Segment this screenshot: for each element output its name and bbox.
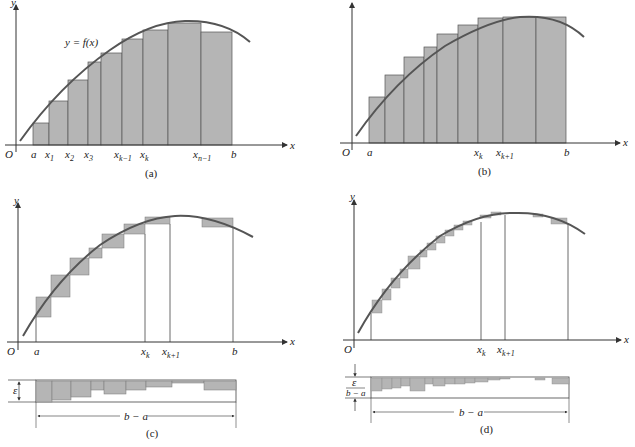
tick-labels-a: a x1 x2 x3 xk−1 xk xn−1 b (31, 148, 237, 163)
caption-d: (d) (480, 423, 493, 436)
difference-strip-c: ε b − a (8, 380, 236, 428)
svg-text:xk: xk (476, 343, 486, 358)
svg-text:b: b (232, 345, 238, 357)
origin-label: O (7, 345, 15, 357)
panel-a: y = f(x) x y O a x1 x2 x3 xk−1 xk xn−1 b… (5, 0, 295, 180)
svg-text:x3: x3 (83, 148, 93, 163)
caption-b: (b) (478, 165, 491, 178)
origin-label: O (5, 148, 13, 160)
tick-labels-d: xk xk+1 (476, 343, 515, 358)
panel-b: x O a xk xk+1 b (b) (340, 3, 628, 178)
strip-height-label: ε (13, 384, 18, 396)
svg-text:xk+1: xk+1 (161, 345, 180, 360)
svg-text:a: a (34, 345, 40, 357)
caption-a: (a) (145, 167, 158, 180)
x-axis-label: x (622, 136, 628, 148)
lower-sum-rectangles (33, 23, 232, 145)
svg-text:x1: x1 (44, 148, 54, 163)
caption-c: (c) (146, 427, 159, 440)
svg-text:a: a (367, 146, 373, 158)
svg-text:xk−1: xk−1 (113, 148, 132, 163)
x-axis-label: x (289, 335, 295, 347)
svg-text:xk+1: xk+1 (495, 146, 514, 161)
panel-c: y x O a xk xk+1 b (7, 194, 295, 440)
x-axis-label: x (623, 333, 629, 345)
curve-label: y = f(x) (64, 36, 98, 49)
svg-text:xk: xk (140, 345, 150, 360)
y-axis-label: y (10, 0, 16, 8)
svg-text:xk+1: xk+1 (496, 343, 515, 358)
difference-strip-d: ε b − a b − a (345, 364, 569, 423)
svg-text:b: b (564, 146, 570, 158)
svg-text:a: a (31, 148, 37, 160)
svg-text:b: b (231, 148, 237, 160)
x-axis-label: x (289, 139, 295, 151)
strip-height-numerator: ε (352, 376, 357, 388)
tick-labels-b: a xk xk+1 b (367, 146, 570, 161)
tick-labels-c: a xk xk+1 b (34, 345, 238, 360)
panel-d: y x O xk xk+1 (343, 190, 629, 436)
curve-f (358, 213, 585, 333)
difference-rectangles (36, 217, 233, 317)
origin-label: O (344, 343, 352, 355)
svg-text:xk: xk (139, 148, 149, 163)
strip-width-label: b − a (459, 406, 483, 418)
svg-text:xn−1: xn−1 (192, 148, 211, 163)
svg-text:x2: x2 (64, 148, 74, 163)
upper-sum-rectangles (369, 17, 566, 143)
origin-label: O (342, 146, 350, 158)
y-axis-label: y (349, 190, 355, 202)
riemann-sum-figure: y = f(x) x y O a x1 x2 x3 xk−1 xk xn−1 b… (0, 0, 635, 447)
difference-rectangles-fine (372, 212, 567, 313)
y-axis-label: y (13, 194, 19, 206)
strip-height-denominator: b − a (346, 388, 366, 398)
svg-text:xk: xk (473, 146, 483, 161)
strip-width-label: b − a (124, 410, 148, 422)
